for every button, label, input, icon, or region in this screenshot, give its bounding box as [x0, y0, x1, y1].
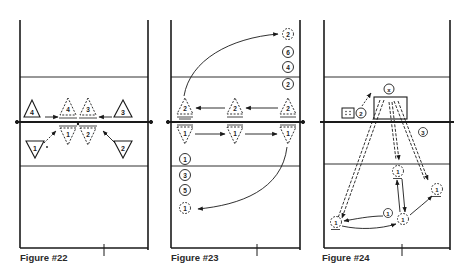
svg-text:2: 2 — [183, 105, 187, 112]
movement-arrows — [44, 117, 115, 143]
svg-text:4: 4 — [30, 109, 34, 116]
player-triangle-1: 1 — [26, 141, 44, 158]
attack-label: 3 — [419, 128, 428, 137]
ball-cart-icon — [342, 108, 354, 118]
svg-text:3: 3 — [121, 109, 125, 116]
svg-text:2: 2 — [286, 31, 290, 38]
figure-24-drill: x 2 3 1 — [331, 84, 443, 230]
figure-24-caption: Figure #24 — [322, 252, 370, 263]
player-triangle-4: 4 — [24, 100, 40, 117]
svg-text:1: 1 — [33, 145, 37, 152]
svg-text:2: 2 — [286, 81, 290, 88]
svg-text:1: 1 — [183, 156, 187, 163]
player-triangle-3: 3 — [114, 100, 132, 117]
svg-text:2: 2 — [86, 131, 90, 138]
movement-arrows — [342, 179, 432, 228]
svg-text:3: 3 — [86, 106, 90, 113]
near-queue: 1 3 5 1 — [180, 154, 191, 214]
net-player-near-mid: 1 — [227, 125, 243, 144]
movement-label: 1 — [384, 209, 393, 218]
defender-position-left: 1 — [331, 217, 342, 230]
svg-text:2: 2 — [233, 105, 237, 112]
ball-icon — [77, 123, 79, 125]
net-player-far-right: 2 — [280, 98, 296, 117]
svg-text:5: 5 — [183, 187, 187, 194]
defender-position-right: 1 — [432, 184, 443, 197]
far-queue: 2 6 4 2 — [283, 29, 294, 90]
svg-text:1: 1 — [233, 130, 237, 137]
svg-text:6: 6 — [286, 49, 290, 56]
net-player-far-left: 2 — [177, 98, 193, 119]
feeder: 2 — [356, 108, 366, 118]
net-player-near-left: 1 — [177, 125, 193, 144]
svg-text:1: 1 — [183, 205, 187, 212]
figure-22-caption: Figure #22 — [20, 252, 68, 263]
figure-22-players: 4 3 4 3 1 2 1 — [24, 98, 132, 158]
player-triangle-1-dashed: 1 — [59, 126, 77, 145]
svg-text:4: 4 — [286, 64, 290, 71]
defender-position-mid-back: 1 — [398, 214, 409, 225]
net-player-far-mid: 2 — [227, 98, 243, 117]
svg-text:2: 2 — [286, 105, 290, 112]
net-player-near-right: 1 — [280, 125, 296, 144]
player-triangle-2: 2 — [114, 141, 132, 158]
svg-text:1: 1 — [183, 130, 187, 137]
svg-text:1: 1 — [286, 130, 290, 137]
diagram-canvas: 4 3 4 3 1 2 1 — [0, 0, 465, 271]
svg-text:1: 1 — [66, 131, 70, 138]
svg-text:4: 4 — [66, 106, 70, 113]
defender-position-center: 1 — [393, 166, 404, 179]
figure-22-court — [15, 20, 152, 256]
player-triangle-3-dashed: 3 — [79, 98, 97, 118]
svg-text:2: 2 — [121, 145, 125, 152]
svg-text:3: 3 — [183, 172, 187, 179]
coach: x — [384, 84, 394, 94]
figure-23-caption: Figure #23 — [171, 252, 219, 263]
player-triangle-4-dashed: 4 — [59, 98, 77, 118]
player-triangle-2-dashed: 2 — [79, 126, 97, 145]
